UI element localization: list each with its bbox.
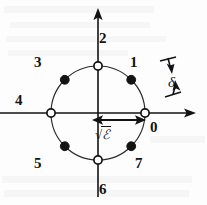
constellation-point-5[interactable] [60, 142, 69, 151]
constellation-point-6[interactable] [94, 156, 102, 164]
point-label-6: 6 [99, 182, 107, 197]
figure-canvas: 01234567 √ℰ δ [0, 0, 207, 205]
radius-magnitude-label: √ℰ [95, 128, 111, 141]
axes-group [0, 8, 196, 197]
point-label-1: 1 [130, 55, 138, 70]
point-label-0: 0 [150, 120, 158, 135]
radius-double-arrow [92, 115, 146, 125]
constellation-point-2[interactable] [94, 62, 102, 70]
energy-symbol: ℰ [101, 126, 111, 142]
point-label-4: 4 [15, 93, 23, 108]
constellation-point-3[interactable] [60, 75, 69, 84]
point-label-5: 5 [34, 156, 42, 171]
constellation-point-1[interactable] [127, 75, 136, 84]
angular-spacing-label: δ [168, 75, 175, 90]
point-label-3: 3 [34, 55, 42, 70]
constellation-point-7[interactable] [127, 142, 136, 151]
point-label-2: 2 [99, 31, 107, 46]
point-label-7: 7 [135, 156, 143, 171]
constellation-point-0[interactable] [141, 109, 149, 117]
constellation-point-4[interactable] [47, 109, 55, 117]
